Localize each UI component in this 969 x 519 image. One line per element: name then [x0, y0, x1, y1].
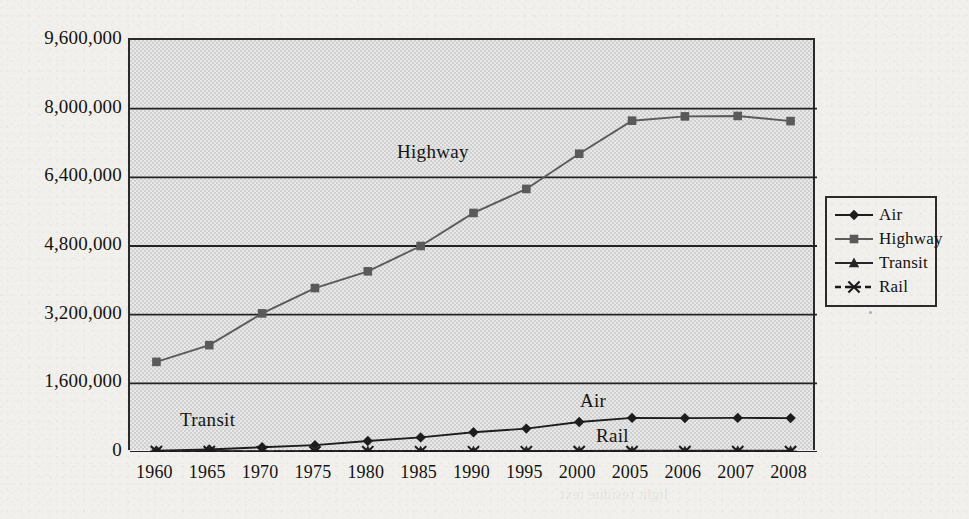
- x-axis-tick-label: 1975: [283, 462, 343, 482]
- x-axis-tick-label: 1960: [124, 462, 184, 482]
- data-point-marker-diamond: [415, 432, 425, 442]
- series-highway: [152, 112, 795, 367]
- legend-key-triangle-icon: [833, 253, 875, 273]
- y-axis-tick-label: 8,000,000: [4, 97, 122, 116]
- legend-item-air[interactable]: Air: [833, 203, 929, 227]
- x-axis-tick-label: 2008: [759, 462, 819, 482]
- series-annotation-air: Air: [580, 391, 606, 411]
- series-line: [156, 116, 790, 362]
- series-annotation-transit: Transit: [180, 410, 235, 430]
- data-point-marker-square: [416, 242, 425, 251]
- data-point-marker-diamond: [627, 413, 637, 423]
- data-point-marker-diamond: [785, 413, 795, 423]
- x-axis-tick-label: 2007: [706, 462, 766, 482]
- legend-item-transit[interactable]: Transit: [833, 251, 929, 275]
- y-axis: 01,600,0003,200,0004,800,0006,400,0008,0…: [0, 0, 122, 519]
- legend-key-diamond-icon: [833, 205, 875, 225]
- data-point-marker-diamond: [521, 423, 531, 433]
- data-point-marker-square: [786, 117, 795, 126]
- data-point-marker-square: [733, 112, 742, 121]
- x-axis-tick-label: 1985: [389, 462, 449, 482]
- legend-item-highway[interactable]: Highway: [833, 227, 929, 251]
- legend-label: Transit: [875, 254, 928, 272]
- data-point-marker-square: [522, 185, 531, 194]
- data-point-marker-square: [152, 358, 161, 367]
- x-axis: 1960196519701975198019851990199520002005…: [128, 462, 815, 492]
- scan-speck: [869, 311, 872, 314]
- data-point-marker-square: [205, 341, 214, 350]
- x-axis-tick-label: 2005: [600, 462, 660, 482]
- data-point-marker-square: [311, 284, 320, 293]
- plot-area: HighwayTransitAirRail: [128, 38, 815, 450]
- data-point-marker-diamond: [363, 436, 373, 446]
- x-axis-tick-label: 1995: [494, 462, 554, 482]
- data-point-marker-square: [258, 309, 267, 318]
- data-point-marker-diamond: [680, 413, 690, 423]
- gridlines: [130, 109, 817, 452]
- legend-label: Highway: [875, 230, 943, 248]
- series-annotation-highway: Highway: [397, 142, 469, 162]
- x-axis-tick-label: 1980: [336, 462, 396, 482]
- legend-key-square-icon: [833, 229, 875, 249]
- y-axis-tick-label: 1,600,000: [4, 371, 122, 390]
- y-axis-tick-label: 0: [4, 440, 122, 459]
- y-axis-tick-label: 9,600,000: [4, 28, 122, 47]
- data-point-marker-square: [575, 149, 584, 158]
- y-axis-tick-label: 4,800,000: [4, 234, 122, 253]
- legend-label: Air: [875, 206, 902, 224]
- data-point-marker-square: [364, 267, 373, 276]
- chart-canvas: [130, 40, 817, 452]
- data-point-marker-diamond: [468, 427, 478, 437]
- x-axis-tick-label: 1970: [230, 462, 290, 482]
- data-point-marker-square: [628, 116, 637, 125]
- x-axis-tick-label: 1990: [442, 462, 502, 482]
- data-point-marker-diamond: [849, 210, 859, 220]
- chart-legend[interactable]: AirHighwayTransitRail: [825, 196, 937, 307]
- data-point-marker-square: [850, 235, 859, 244]
- x-axis-tick-label: 2006: [653, 462, 713, 482]
- data-point-marker-square: [469, 209, 478, 218]
- legend-label: Rail: [875, 278, 908, 296]
- data-point-marker-diamond: [733, 413, 743, 423]
- y-axis-tick-label: 6,400,000: [4, 165, 122, 184]
- data-point-marker-cross: [848, 281, 861, 292]
- series-annotation-rail: Rail: [596, 426, 629, 446]
- legend-key-cross-icon: [833, 277, 875, 297]
- data-point-marker-diamond: [574, 417, 584, 427]
- x-axis-tick-label: 1965: [177, 462, 237, 482]
- chart-page: reverse-page show-throughscanned paper t…: [0, 0, 969, 519]
- x-axis-tick-label: 2000: [547, 462, 607, 482]
- y-axis-tick-label: 3,200,000: [4, 303, 122, 322]
- data-point-marker-square: [681, 112, 690, 121]
- legend-item-rail[interactable]: Rail: [833, 275, 929, 299]
